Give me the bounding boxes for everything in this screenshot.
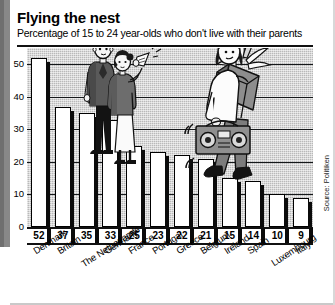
bar xyxy=(55,107,71,227)
source-credit-text: Source: Politiken xyxy=(322,155,331,211)
bar xyxy=(174,155,190,227)
bar-shadow xyxy=(308,202,312,227)
bar xyxy=(126,146,142,227)
bar xyxy=(102,120,118,227)
bar-shadow xyxy=(189,159,193,227)
bar-value-label: 10 xyxy=(267,229,287,242)
bar-shadow xyxy=(141,150,145,227)
header-divider xyxy=(17,45,313,47)
chart-subtitle: Percentage of 15 to 24 year-olds who don… xyxy=(17,27,302,39)
y-tick-label: 50 xyxy=(2,59,24,68)
source-credit: Source: Politiken xyxy=(322,155,332,245)
bar-shadow xyxy=(94,117,98,227)
bar xyxy=(245,181,261,227)
bar-series xyxy=(27,48,313,227)
y-tick-label: 30 xyxy=(2,124,24,133)
bar-shadow xyxy=(260,185,264,227)
bar xyxy=(150,152,166,227)
category-labels: DenmarkBritainThe NetherlandsGermanyFran… xyxy=(0,243,335,305)
y-tick-label: 0 xyxy=(2,222,24,231)
bar xyxy=(293,198,309,227)
bar-shadow xyxy=(165,156,169,227)
y-tick-label: 10 xyxy=(2,189,24,198)
chart-figure: Flying the nest Percentage of 15 to 24 y… xyxy=(0,0,335,305)
bar-shadow xyxy=(284,198,288,227)
bar xyxy=(31,58,47,227)
page-title: Flying the nest xyxy=(17,9,120,26)
bar xyxy=(79,113,95,227)
bar xyxy=(198,159,214,227)
bar-shadow xyxy=(213,163,217,227)
bar xyxy=(222,178,238,227)
bar xyxy=(269,194,285,227)
y-tick-label: 20 xyxy=(2,157,24,166)
y-tick-label: 40 xyxy=(2,92,24,101)
bar-shadow xyxy=(237,182,241,227)
bar-shadow xyxy=(46,62,50,227)
bar-shadow xyxy=(117,124,121,227)
bar-shadow xyxy=(70,111,74,227)
